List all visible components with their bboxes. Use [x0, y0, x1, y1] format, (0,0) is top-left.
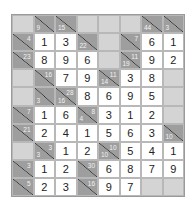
across-clue: 16: [45, 71, 52, 78]
clue-cell: 84: [77, 106, 99, 124]
across-clue: 4: [27, 35, 31, 42]
value-cell[interactable]: 2: [163, 51, 185, 69]
blank-cell: [141, 178, 163, 196]
value-cell[interactable]: 7: [141, 160, 163, 178]
value-cell[interactable]: 1: [55, 142, 77, 160]
across-clue: 16: [88, 180, 95, 187]
across-clue: 7: [27, 108, 31, 115]
value-cell[interactable]: 6: [98, 160, 120, 178]
clue-cell: 4: [12, 33, 34, 51]
value-cell[interactable]: 3: [120, 69, 142, 87]
value-cell[interactable]: 2: [141, 106, 163, 124]
value-cell[interactable]: 4: [141, 142, 163, 160]
blank-cell: [98, 15, 120, 33]
blank-cell: [163, 69, 185, 87]
across-clue: 21: [23, 126, 30, 133]
value-cell[interactable]: 1: [163, 142, 185, 160]
blank-cell: [163, 178, 185, 196]
value-cell[interactable]: 2: [34, 178, 56, 196]
clue-cell: 7: [120, 33, 142, 51]
value-cell[interactable]: 8: [120, 160, 142, 178]
value-cell[interactable]: 6: [141, 33, 163, 51]
value-cell[interactable]: 7: [55, 69, 77, 87]
down-clue: 3: [166, 24, 170, 31]
blank-cell: [12, 87, 34, 105]
across-clue: 11: [131, 53, 138, 60]
across-clue: 11: [110, 71, 117, 78]
value-cell[interactable]: 1: [34, 33, 56, 51]
across-clue: 10: [109, 144, 116, 151]
blank-cell: [12, 15, 34, 33]
down-clue: 16: [58, 97, 65, 104]
blank-cell: [120, 15, 142, 33]
value-cell[interactable]: 1: [34, 106, 56, 124]
value-cell[interactable]: 5: [98, 124, 120, 142]
blank-cell: [163, 87, 185, 105]
across-clue: 23: [23, 53, 30, 60]
value-cell[interactable]: 2: [77, 142, 99, 160]
blank-cell: [12, 142, 34, 160]
down-clue: 15: [58, 24, 65, 31]
value-cell[interactable]: 9: [55, 51, 77, 69]
down-clue: 9: [37, 24, 41, 31]
down-clue: 4: [80, 115, 84, 122]
clue-cell: 30: [77, 160, 99, 178]
blank-cell: [163, 106, 185, 124]
clue-cell: 1114: [98, 69, 120, 87]
blank-cell: [98, 33, 120, 51]
value-cell[interactable]: 6: [98, 87, 120, 105]
value-cell[interactable]: 1: [163, 33, 185, 51]
clue-cell: 3: [163, 15, 185, 33]
clue-cell: 16: [34, 69, 56, 87]
clue-cell: 9: [34, 15, 56, 33]
clue-cell: 1119: [120, 51, 142, 69]
kakuro-board: 9154434132276123896111992167911143832816…: [11, 14, 185, 197]
value-cell[interactable]: 5: [120, 142, 142, 160]
clue-cell: 33: [34, 142, 56, 160]
value-cell[interactable]: 7: [120, 178, 142, 196]
value-cell[interactable]: 5: [141, 87, 163, 105]
clue-cell: 10: [163, 124, 185, 142]
value-cell[interactable]: 3: [98, 106, 120, 124]
blank-cell: [77, 15, 99, 33]
down-clue: 22: [80, 42, 87, 49]
clue-cell: 5: [12, 178, 34, 196]
across-clue: 3: [27, 162, 31, 169]
clue-cell: 16: [77, 178, 99, 196]
across-clue: 7: [134, 35, 138, 42]
value-cell[interactable]: 9: [77, 69, 99, 87]
value-cell[interactable]: 2: [34, 124, 56, 142]
value-cell[interactable]: 9: [120, 87, 142, 105]
down-clue: 19: [123, 60, 130, 67]
value-cell[interactable]: 1: [77, 124, 99, 142]
value-cell[interactable]: 8: [141, 69, 163, 87]
value-cell[interactable]: 6: [77, 51, 99, 69]
value-cell[interactable]: 8: [77, 87, 99, 105]
down-clue: 14: [101, 78, 108, 85]
across-clue: 30: [88, 162, 95, 169]
value-cell[interactable]: 6: [55, 106, 77, 124]
value-cell[interactable]: 4: [55, 124, 77, 142]
down-clue: 3: [37, 151, 41, 158]
value-cell[interactable]: 9: [98, 178, 120, 196]
across-clue: 8: [91, 108, 95, 115]
clue-cell: 3: [34, 87, 56, 105]
value-cell[interactable]: 9: [141, 51, 163, 69]
value-cell[interactable]: 1: [34, 160, 56, 178]
clue-cell: 2816: [55, 87, 77, 105]
value-cell[interactable]: 3: [55, 178, 77, 196]
clue-cell: 15: [55, 15, 77, 33]
clue-cell: 21: [12, 124, 34, 142]
value-cell[interactable]: 2: [55, 160, 77, 178]
value-cell[interactable]: 3: [141, 124, 163, 142]
value-cell[interactable]: 6: [120, 124, 142, 142]
value-cell[interactable]: 9: [163, 160, 185, 178]
value-cell[interactable]: 3: [55, 33, 77, 51]
across-clue: 3: [48, 144, 52, 151]
clue-cell: 3: [12, 160, 34, 178]
clue-cell: 44: [141, 15, 163, 33]
value-cell[interactable]: 8: [34, 51, 56, 69]
across-clue: 5: [27, 180, 31, 187]
value-cell[interactable]: 1: [120, 106, 142, 124]
blank-cell: [98, 51, 120, 69]
